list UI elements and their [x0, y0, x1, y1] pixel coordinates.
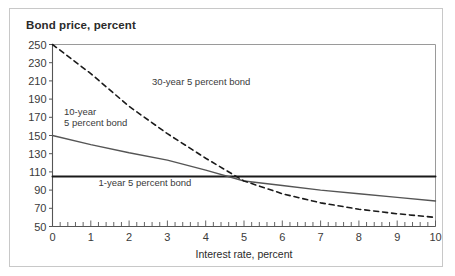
x-tick-label: 10 — [429, 231, 441, 243]
x-tick-label: 6 — [279, 231, 285, 243]
chart-plot: 5070901101301501701902102302500123456789… — [0, 0, 455, 276]
y-tick-label: 230 — [28, 57, 46, 69]
y-tick-label: 250 — [28, 39, 46, 51]
series-annotation-1: 30-year 5 percent bond — [152, 76, 250, 87]
y-tick-label: 90 — [34, 184, 46, 196]
x-tick-label: 4 — [203, 231, 209, 243]
series-annotation-4: 1-year 5 percent bond — [98, 177, 191, 188]
y-tick-label: 150 — [28, 130, 46, 142]
y-tick-label: 130 — [28, 148, 46, 160]
y-tick-label: 110 — [29, 166, 47, 178]
x-tick-label: 3 — [164, 231, 170, 243]
series-annotation-3: 5 percent bond — [64, 117, 127, 128]
y-tick-label: 70 — [34, 202, 46, 214]
figure-container: Bond price, percent 50709011013015017019… — [0, 0, 455, 276]
plot-background — [53, 45, 436, 227]
x-tick-label: 1 — [88, 231, 94, 243]
x-tick-label: 2 — [126, 231, 132, 243]
y-tick-label: 190 — [28, 93, 46, 105]
x-tick-label: 7 — [318, 231, 324, 243]
x-tick-label: 0 — [49, 231, 55, 243]
x-tick-label: 8 — [356, 231, 362, 243]
series-annotation-2: 10-year — [64, 106, 96, 117]
x-tick-label: 9 — [394, 231, 400, 243]
x-tick-label: 5 — [241, 231, 247, 243]
y-tick-label: 170 — [28, 111, 46, 123]
y-tick-label: 210 — [28, 75, 46, 87]
x-axis-title: Interest rate, percent — [196, 248, 293, 260]
y-tick-label: 50 — [34, 221, 46, 233]
